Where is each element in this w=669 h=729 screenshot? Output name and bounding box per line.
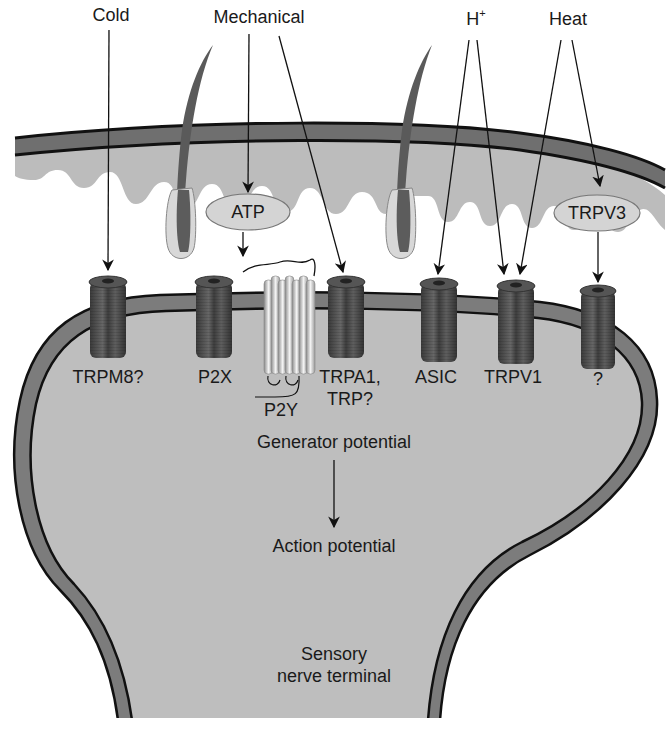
- generator-potential-label: Generator potential: [257, 433, 411, 451]
- atp-label: ATP: [231, 202, 265, 223]
- channel-unknown: [580, 285, 616, 369]
- action-potential-label: Action potential: [272, 537, 395, 555]
- stimulus-mechanical-label: Mechanical: [213, 8, 304, 26]
- channel-trpa1: [327, 276, 365, 358]
- asic-label: ASIC: [415, 368, 457, 386]
- trpv1-label: TRPV1: [484, 368, 542, 386]
- trpa1-label: TRPA1, TRP?: [319, 366, 381, 410]
- p2x-label: P2X: [198, 368, 232, 386]
- p2y-label: P2Y: [264, 401, 298, 419]
- channel-trpm8: [89, 276, 127, 358]
- channel-p2x: [195, 276, 233, 358]
- trpm8-label: TRPM8?: [72, 368, 143, 386]
- stimulus-cold-label: Cold: [92, 6, 129, 24]
- channel-trpv1: [497, 280, 535, 364]
- stimulus-protons-label: H+: [466, 10, 485, 28]
- sensory-terminal-diagram: [0, 0, 669, 729]
- unknown-channel-label: ?: [593, 370, 603, 388]
- stimulus-heat-label: Heat: [549, 10, 587, 28]
- trpv3-label: TRPV3: [568, 203, 626, 224]
- channel-asic: [420, 278, 458, 362]
- terminal-label: Sensory nerve terminal: [277, 643, 391, 687]
